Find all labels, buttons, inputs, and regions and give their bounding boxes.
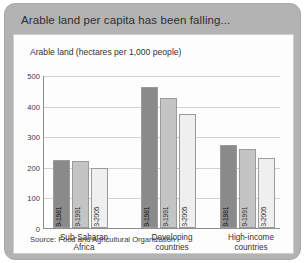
- y-axis-tick-label: 100: [27, 194, 40, 203]
- chart-subtitle: Arable land (hectares per 1,000 people): [30, 47, 181, 57]
- bar-label: 1979-1981: [222, 207, 229, 228]
- card-title: Arable land per capita has been falling.…: [5, 4, 300, 36]
- bar: 1979-1981: [141, 87, 158, 228]
- group-label-line: countries: [152, 243, 193, 253]
- bar: 2003-2005: [91, 168, 108, 228]
- bar: 1989-1991: [160, 98, 177, 228]
- bar-group: 1979-19811989-19912003-2005Sub-SaharanAf…: [53, 76, 115, 228]
- group-label-line: High-income: [228, 233, 274, 243]
- bar: 2003-2005: [179, 114, 196, 228]
- y-axis-tick-label: 300: [27, 133, 40, 142]
- chart-plate: Arable land (hectares per 1,000 people) …: [13, 34, 294, 254]
- bar: 1989-1991: [239, 149, 256, 228]
- group-label-line: Africa: [60, 243, 108, 253]
- y-axis-tick-label: 0: [36, 225, 40, 234]
- y-axis-tick-label: 500: [27, 72, 40, 81]
- chart-card: Arable land per capita has been falling.…: [4, 3, 301, 260]
- gridline: [44, 229, 280, 230]
- bar-label: 1979-1981: [143, 207, 150, 228]
- bar-group: 1979-19811989-19912003-2005High-incomeco…: [220, 76, 282, 228]
- bar-label: 1989-1991: [74, 207, 81, 228]
- bar-label: 1979-1981: [55, 207, 62, 228]
- y-axis-tick-label: 200: [27, 163, 40, 172]
- y-axis-tick-label: 400: [27, 102, 40, 111]
- bar-label: 2003-2005: [93, 207, 100, 228]
- plot-area: 01002003004005001979-19811989-19912003-2…: [43, 76, 280, 229]
- group-label: High-incomecountries: [228, 233, 274, 254]
- bar: 1979-1981: [220, 145, 237, 228]
- source-note: Source: Food and Agricultural Organizati…: [30, 235, 175, 244]
- bar-label: 1989-1991: [162, 207, 169, 228]
- bar-group: 1979-19811989-19912003-2005Developingcou…: [141, 76, 203, 228]
- bar-label: 2003-2005: [260, 207, 267, 228]
- bar-label: 1989-1991: [241, 207, 248, 228]
- bar: 1979-1981: [53, 160, 70, 228]
- bar: 2003-2005: [258, 158, 275, 228]
- bar: 1989-1991: [72, 161, 89, 228]
- bar-label: 2003-2005: [181, 207, 188, 228]
- group-label-line: countries: [228, 243, 274, 253]
